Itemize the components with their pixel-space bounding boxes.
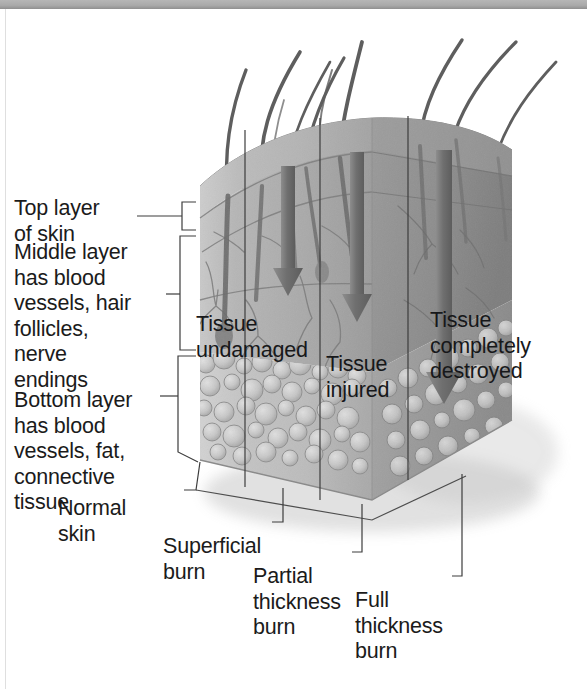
label-tissue-completely-destroyed: Tissue completely destroyed <box>430 308 531 385</box>
layer-brackets <box>137 202 198 462</box>
leader-normal-skin <box>184 462 200 490</box>
bracket-top-layer <box>182 202 196 230</box>
label-normal-skin: Normal skin <box>58 496 126 547</box>
bracket-middle-layer <box>180 236 196 350</box>
label-tissue-undamaged: Tissue undamaged <box>196 312 308 363</box>
label-superficial-burn: Superficial burn <box>163 534 261 585</box>
label-full-thickness-burn: Full thickness burn <box>355 588 443 665</box>
burn-depth-figure: Cross-section of skin showing burn depth <box>0 0 587 689</box>
bracket-bottom-layer <box>178 356 198 462</box>
label-tissue-injured: Tissue injured <box>326 352 389 403</box>
label-partial-thickness-burn: Partial thickness burn <box>253 564 341 641</box>
label-middle-layer: Middle layer has blood vessels, hair fol… <box>14 240 131 393</box>
